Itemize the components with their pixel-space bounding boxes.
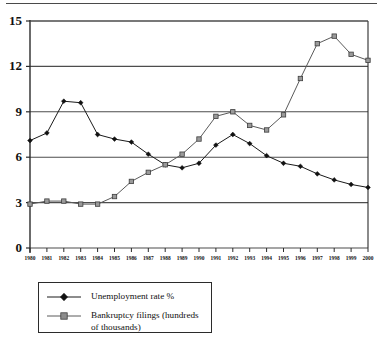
legend-item-unemployment: Unemployment rate %	[45, 291, 174, 303]
data-point-marker	[349, 182, 354, 187]
x-axis-label-2000: 2000	[357, 255, 379, 261]
data-point-marker	[180, 165, 185, 170]
data-point-marker	[264, 128, 268, 132]
legend-label-bankruptcy: Bankruptcy filings (hundreds of thousand…	[83, 310, 199, 333]
data-point-marker	[79, 202, 83, 206]
data-point-marker	[78, 100, 83, 105]
y-axis-label-15: 15	[0, 13, 22, 29]
data-point-marker	[197, 137, 201, 141]
legend-item-bankruptcy: Bankruptcy filings (hundreds of thousand…	[45, 310, 199, 333]
diamond-marker	[45, 292, 83, 302]
data-point-marker	[298, 76, 302, 80]
data-point-marker	[281, 161, 286, 166]
data-point-marker	[95, 202, 99, 206]
data-point-marker	[230, 132, 235, 137]
data-point-marker	[332, 178, 337, 183]
data-point-marker	[28, 138, 33, 143]
data-point-marker	[366, 185, 371, 190]
data-point-marker	[349, 52, 353, 56]
data-point-marker	[231, 110, 235, 114]
data-point-marker	[315, 171, 320, 176]
data-point-marker	[28, 202, 32, 206]
legend-label-unemployment: Unemployment rate %	[83, 291, 174, 303]
data-point-marker	[146, 170, 150, 174]
series-line-1	[30, 36, 368, 204]
data-series	[28, 34, 371, 206]
data-point-marker	[248, 123, 252, 127]
data-point-marker	[315, 42, 319, 46]
data-point-marker	[112, 137, 117, 142]
data-point-marker	[214, 114, 218, 118]
data-point-marker	[129, 179, 133, 183]
data-point-marker	[298, 164, 303, 169]
data-point-marker	[45, 131, 50, 136]
y-axis-label-0: 0	[0, 240, 22, 256]
y-axis-label-3: 3	[0, 195, 22, 211]
data-point-marker	[61, 99, 66, 104]
data-point-marker	[45, 199, 49, 203]
data-point-marker	[281, 113, 285, 117]
data-point-marker	[366, 58, 370, 62]
data-point-marker	[62, 199, 66, 203]
data-point-marker	[332, 34, 336, 38]
data-point-marker	[180, 152, 184, 156]
y-axis-label-6: 6	[0, 149, 22, 165]
data-point-marker	[112, 194, 116, 198]
data-point-marker	[95, 132, 100, 137]
y-axis-label-9: 9	[0, 104, 22, 120]
chart-figure: 03691215 1980198119821983198419851986198…	[0, 0, 383, 341]
y-axis-label-12: 12	[0, 58, 22, 74]
chart-legend: Unemployment rate % Bankruptcy filings (…	[38, 282, 212, 333]
data-point-marker	[163, 163, 167, 167]
gridlines	[30, 21, 368, 248]
square-marker	[45, 311, 83, 321]
